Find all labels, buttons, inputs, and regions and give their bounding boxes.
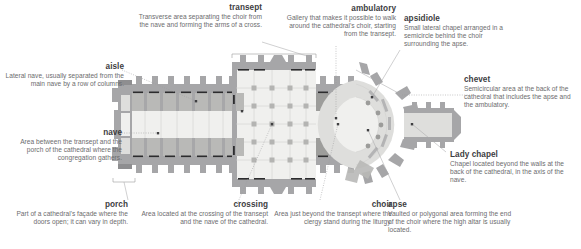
annotation-aisle: aisle Lateral nave, usually separated fr… [2, 62, 124, 88]
annotation-term: choir [268, 200, 392, 210]
annotation-description: Transverse area separating the choir fro… [130, 13, 262, 29]
annotation-term: nave [2, 128, 122, 138]
annotation-apsidiole: apsidiole Small lateral chapel arranged … [404, 14, 516, 47]
annotation-description: Part of a cathedral's façade where the d… [4, 210, 128, 226]
annotation-ambulatory: ambulatory Gallery that makes it possibl… [278, 4, 396, 37]
annotation-description: Area just beyond the transept where the … [268, 210, 392, 226]
annotation-description: Lateral nave, usually separated from the… [2, 72, 124, 88]
annotation-nave: nave Area between the transept and the p… [2, 128, 122, 161]
annotation-description: Chapel located beyond the walls at the b… [450, 160, 578, 183]
annotation-choir: choir Area just beyond the transept wher… [268, 200, 392, 226]
annotation-description: Area located at the crossing of the tran… [140, 210, 268, 226]
annotation-term: transept [130, 3, 262, 13]
annotation-apse: apse Vaulted or polygonal area forming t… [388, 200, 518, 233]
annotation-lady-chapel: Lady chapel Chapel located beyond the wa… [450, 150, 578, 183]
annotation-term: Lady chapel [450, 150, 578, 160]
annotation-term: apsidiole [404, 14, 516, 24]
annotation-term: porch [4, 200, 128, 210]
annotation-term: chevet [464, 75, 580, 85]
annotation-description: Semicircular area at the back of the cat… [464, 85, 580, 108]
annotation-transept: transept Transverse area separating the … [130, 3, 262, 29]
annotation-description: Vaulted or polygonal area forming the en… [388, 210, 518, 233]
annotation-description: Area between the transept and the porch … [2, 138, 122, 161]
annotation-crossing: crossing Area located at the crossing of… [140, 200, 268, 226]
annotation-term: apse [388, 200, 518, 210]
annotation-description: Gallery that makes it possible to walk a… [278, 14, 396, 37]
diagram-canvas: transept Transverse area separating the … [0, 0, 581, 249]
annotation-description: Small lateral chapel arranged in a semic… [404, 24, 516, 47]
annotation-term: crossing [140, 200, 268, 210]
plan-transept-block [232, 55, 316, 194]
annotation-chevet: chevet Semicircular area at the back of … [464, 75, 580, 108]
annotation-porch: porch Part of a cathedral's façade where… [4, 200, 128, 226]
annotation-term: ambulatory [278, 4, 396, 14]
plan-nave-block [131, 76, 235, 173]
annotation-term: aisle [2, 62, 124, 72]
